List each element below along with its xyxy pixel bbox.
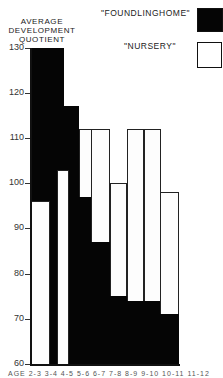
y-tick-label: 60 <box>0 359 24 368</box>
x-axis-labels: AGE 2-3 3-4 4-5 5-6 6-7 7-8 8-9 9-10 10-… <box>8 370 210 377</box>
y-tick-label: 100 <box>0 178 24 187</box>
bar-foundlinghome <box>127 301 144 365</box>
bar-nursery <box>57 170 69 365</box>
y-tick-label: 70 <box>0 314 24 323</box>
bar-foundlinghome <box>160 314 179 365</box>
x-axis-line <box>30 364 180 366</box>
y-tick-label: 120 <box>0 88 24 97</box>
y-tick-label: 110 <box>0 133 24 142</box>
bar-nursery <box>31 201 50 365</box>
y-axis-title: AVERAGE DEVELOPMENT QUOTIENT <box>4 17 80 44</box>
y-tick-label: 80 <box>0 269 24 278</box>
legend-label-nursery: "NURSERY" <box>124 41 176 51</box>
bar-foundlinghome <box>91 242 110 365</box>
bar-foundlinghome <box>144 301 160 365</box>
y-axis-title-line2: DEVELOPMENT <box>4 26 80 35</box>
legend-swatch-nursery <box>197 42 222 68</box>
y-axis-title-line1: AVERAGE <box>4 17 80 26</box>
y-tick-label: 130 <box>0 43 24 52</box>
legend-swatch-foundlinghome <box>197 8 223 32</box>
bar-foundlinghome <box>79 197 91 365</box>
y-tick-label: 90 <box>0 223 24 232</box>
bar-foundlinghome <box>110 296 127 365</box>
y-axis-line <box>30 48 32 366</box>
legend-label-foundlinghome: "FOUNDLINGHOME" <box>101 8 190 18</box>
